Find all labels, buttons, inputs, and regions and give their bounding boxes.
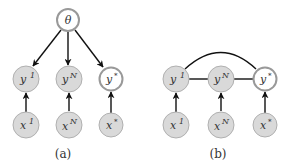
caption-b: (b) (209, 147, 226, 161)
node-xN: x N (56, 112, 82, 138)
node-label-sup: * (114, 118, 118, 126)
caption-a: (a) (55, 147, 72, 161)
node-label-sup: * (268, 118, 272, 126)
node-ystar: y * (254, 68, 277, 91)
node-label-sup: 1 (29, 117, 34, 126)
node-label-sup: N (69, 117, 78, 126)
node-xstar: x * (99, 113, 123, 137)
node-label-base: x (62, 120, 69, 133)
node-xN: x N (208, 112, 234, 138)
node-label-base: y (169, 73, 177, 86)
node-label-sup: 1 (179, 117, 184, 126)
node-label-sup: * (268, 72, 272, 80)
node-label-base: x (20, 119, 27, 132)
node-label-base: x (214, 120, 221, 133)
node-x1: x 1 (163, 112, 189, 138)
node-label-base: y (105, 73, 113, 86)
node-label-sup: N (221, 117, 230, 126)
node-label-base: x (106, 119, 113, 132)
node-y1: y 1 (163, 66, 189, 92)
node-y1: y 1 (13, 66, 39, 92)
panel-b: y 1 y N y * x 1 x N x * (b) (163, 53, 277, 162)
node-label-base: y (259, 73, 267, 86)
node-label-base: y (213, 73, 221, 86)
node-xstar: x * (253, 113, 277, 137)
panel-a: θ y 1 y N y * x 1 x N (13, 9, 123, 161)
node-label-sup: 1 (30, 71, 35, 80)
node-label-base: x (170, 119, 177, 132)
node-label-base: y (61, 73, 69, 86)
node-label: θ (65, 14, 72, 27)
node-x1: x 1 (13, 112, 39, 138)
node-label-sup: * (114, 72, 118, 80)
node-label-base: x (260, 119, 267, 132)
node-theta: θ (57, 9, 79, 31)
node-label-sup: N (221, 71, 230, 80)
node-label-sup: N (69, 71, 78, 80)
node-yN: y N (56, 66, 82, 92)
node-ystar: y * (100, 68, 123, 91)
node-label-sup: 1 (180, 71, 185, 80)
edge-theta-y1 (33, 30, 61, 66)
node-label-base: y (19, 73, 27, 86)
graphical-model-figure: θ y 1 y N y * x 1 x N (0, 0, 292, 167)
node-yN: y N (208, 66, 234, 92)
edge-theta-ystar (75, 30, 103, 67)
